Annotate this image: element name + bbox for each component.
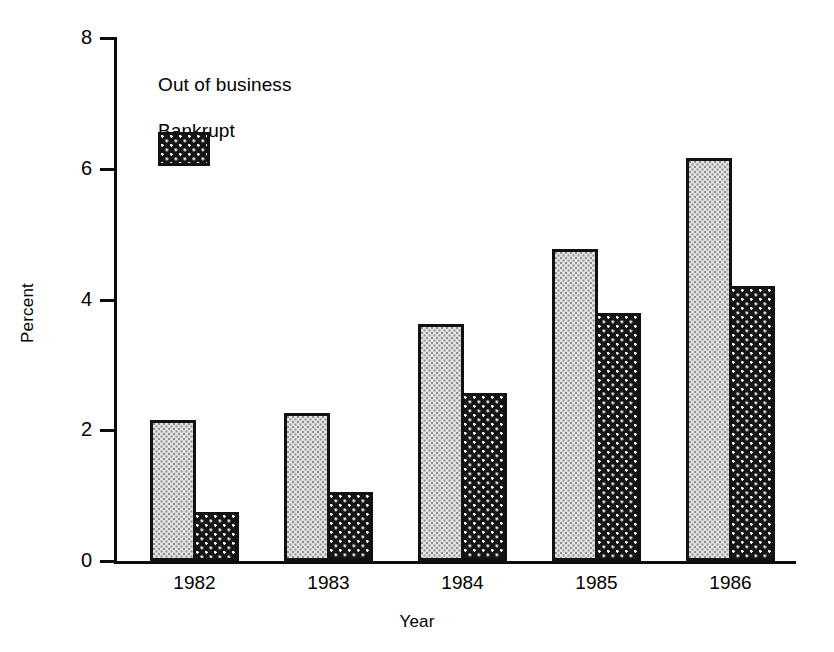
bar-out-of-business-1985 [552,249,598,561]
y-axis-tick-label: 2 [56,419,92,439]
y-axis-title-text: Percent [18,283,38,343]
y-axis-tick-label: 6 [56,158,92,178]
bar-bankrupt-1984 [461,393,507,561]
bar-bankrupt-1982 [193,512,239,561]
y-axis-title: Percent [18,258,38,368]
bar-bankrupt-1983 [327,492,373,561]
y-axis-tick-label: 0 [56,550,92,570]
bar-out-of-business-1984 [418,324,464,561]
legend-item-bankrupt: Bankrupt [158,120,292,142]
x-axis-line [114,561,796,564]
bar-out-of-business-1982 [150,420,196,561]
x-axis-label-1986: 1986 [676,572,786,594]
x-axis-title: Year [0,612,834,632]
legend: Out of business Bankrupt [158,74,292,166]
x-axis-label-1984: 1984 [408,572,518,594]
dark-checkered-swatch-icon [158,132,210,166]
y-axis-tick-label: 4 [56,289,92,309]
x-axis-label-1985: 1985 [542,572,652,594]
bar-bankrupt-1986 [729,286,775,561]
y-axis-tick-label: 8 [56,27,92,47]
bar-out-of-business-1983 [284,413,330,561]
bar-chart: Percent 02468 19821983198419851986 Year … [0,0,834,652]
bar-out-of-business-1986 [686,158,732,561]
bar-bankrupt-1985 [595,313,641,561]
x-axis-label-1983: 1983 [274,572,384,594]
legend-item-out-of-business: Out of business [158,74,292,96]
legend-label-out-of-business: Out of business [158,74,292,96]
x-axis-label-1982: 1982 [140,572,250,594]
